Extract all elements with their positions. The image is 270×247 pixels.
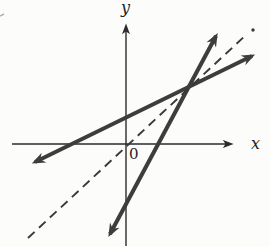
dashed-line [28, 34, 247, 238]
figure-canvas: y x 0 [0, 0, 270, 247]
y-axis-label: y [121, 0, 130, 16]
x-axis-label: x [251, 136, 260, 152]
dashed-line-end-dot [251, 28, 254, 31]
graph-svg [0, 0, 270, 247]
solid-line-shallow [35, 56, 252, 162]
stray-mark [0, 14, 4, 16]
origin-label: 0 [129, 147, 139, 162]
